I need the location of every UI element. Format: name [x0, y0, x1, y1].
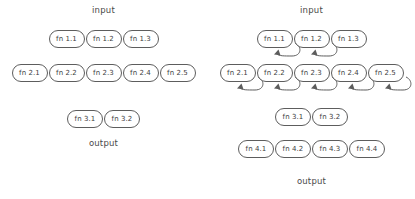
node-row-3: fn 3.1fn 3.2 [0, 110, 207, 128]
fn-node-label: fn 4.2 [283, 145, 304, 153]
input-label-right: input [208, 5, 415, 15]
fn-node[interactable]: fn 3.2 [104, 110, 140, 128]
fn-node-label: fn 2.3 [301, 69, 322, 77]
fn-node[interactable]: fn 1.2 [86, 30, 122, 48]
fn-node[interactable]: fn 4.4 [349, 140, 385, 158]
fn-node[interactable]: fn 1.3 [123, 30, 159, 48]
fn-node-label: fn 2.2 [264, 69, 285, 77]
fn-node-label: fn 2.3 [93, 69, 114, 77]
fn-node[interactable]: fn 3.1 [275, 108, 311, 126]
node-row-1: fn 1.1fn 1.2fn 1.3 [0, 30, 207, 48]
fn-node[interactable]: fn 1.2 [294, 30, 330, 48]
fn-node-label: fn 3.1 [75, 115, 96, 123]
fn-node[interactable]: fn 2.1 [12, 64, 48, 82]
fn-node[interactable]: fn 2.2 [49, 64, 85, 82]
fn-node-label: fn 2.5 [375, 69, 396, 77]
fn-node-label: fn 1.1 [56, 35, 77, 43]
fn-node-label: fn 1.3 [338, 35, 359, 43]
fn-node-label: fn 1.3 [130, 35, 151, 43]
fn-node[interactable]: fn 2.5 [368, 64, 404, 82]
fn-node-label: fn 3.2 [112, 115, 133, 123]
output-label-left: output [0, 138, 207, 148]
fn-node-label: fn 2.2 [56, 69, 77, 77]
fn-node-label: fn 4.4 [357, 145, 378, 153]
fn-node[interactable]: fn 1.3 [331, 30, 367, 48]
fn-node[interactable]: fn 4.1 [238, 140, 274, 158]
fn-node[interactable]: fn 1.1 [257, 30, 293, 48]
fn-node-label: fn 2.1 [227, 69, 248, 77]
output-label-right: output [208, 176, 415, 186]
fn-node[interactable]: fn 2.2 [257, 64, 293, 82]
fn-node-label: fn 2.5 [167, 69, 188, 77]
fn-node[interactable]: fn 2.3 [294, 64, 330, 82]
fn-node-label: fn 2.4 [338, 69, 359, 77]
fn-node[interactable]: fn 3.1 [67, 110, 103, 128]
panel-feedforward: input fn 1.1fn 1.2fn 1.3 fn 2.1fn 2.2fn … [0, 0, 207, 199]
node-row-2: fn 2.1fn 2.2fn 2.3fn 2.4fn 2.5 [208, 64, 415, 82]
fn-node-label: fn 1.2 [301, 35, 322, 43]
fn-node-label: fn 2.1 [19, 69, 40, 77]
fn-node-label: fn 1.1 [264, 35, 285, 43]
input-label-left: input [0, 5, 207, 15]
fn-node-label: fn 2.4 [130, 69, 151, 77]
fn-node[interactable]: fn 2.5 [160, 64, 196, 82]
diagram-canvas: input fn 1.1fn 1.2fn 1.3 fn 2.1fn 2.2fn … [0, 0, 415, 199]
fn-node[interactable]: fn 4.3 [312, 140, 348, 158]
fn-node[interactable]: fn 2.1 [220, 64, 256, 82]
fn-node[interactable]: fn 4.2 [275, 140, 311, 158]
node-row-1: fn 1.1fn 1.2fn 1.3 [208, 30, 415, 48]
node-row-3: fn 3.1fn 3.2 [208, 108, 415, 126]
feedback-loop-arrow-icon [382, 77, 415, 92]
fn-node-label: fn 3.1 [283, 113, 304, 121]
fn-node-label: fn 4.3 [320, 145, 341, 153]
node-row-2: fn 2.1fn 2.2fn 2.3fn 2.4fn 2.5 [0, 64, 207, 82]
fn-node-label: fn 1.2 [93, 35, 114, 43]
fn-node[interactable]: fn 2.4 [331, 64, 367, 82]
fn-node[interactable]: fn 2.3 [86, 64, 122, 82]
fn-node-label: fn 3.2 [320, 113, 341, 121]
node-row-4: fn 4.1fn 4.2fn 4.3fn 4.4 [208, 140, 415, 158]
fn-node[interactable]: fn 1.1 [49, 30, 85, 48]
fn-node[interactable]: fn 3.2 [312, 108, 348, 126]
fn-node[interactable]: fn 2.4 [123, 64, 159, 82]
fn-node-label: fn 4.1 [246, 145, 267, 153]
panel-feedback: input fn 1.1fn 1.2fn 1.3 fn 2.1fn 2.2fn … [208, 0, 415, 199]
